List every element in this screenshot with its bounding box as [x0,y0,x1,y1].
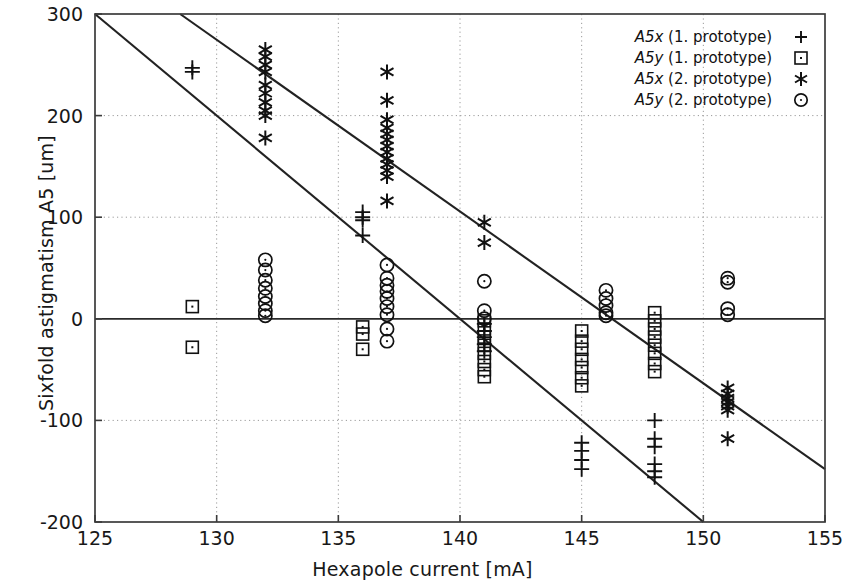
marker-asterisk [381,193,394,208]
legend-item-label: A5x (2. prototype) [635,70,772,88]
marker-plus [647,439,662,454]
marker-circle-center [483,318,485,320]
marker-asterisk [259,108,272,123]
marker-circle-center [727,277,729,279]
y-axis-title: Sixfold astigmatism A5 [um] [35,13,57,533]
x-axis-title: Hexapole current [mA] [0,558,845,580]
y-tick-label: 300 [0,3,83,25]
marker-plus [574,462,589,477]
marker-square-center [362,348,364,350]
marker-plus [185,64,200,79]
marker-circle-center [264,259,266,261]
data-series-1 [186,301,660,392]
marker-square-center [483,320,485,322]
x-tick-label: 155 [807,527,843,549]
y-tick-label: -200 [0,511,83,533]
marker-square-center [581,330,583,332]
chart-legend: A5x (1. prototype)A5y (1. prototype)A5x … [592,22,822,114]
y-tick-label: 200 [0,105,83,127]
marker-square-center [654,320,656,322]
x-tick-label: 150 [685,527,721,549]
data-series-0 [185,60,662,484]
marker-circle-center [386,328,388,330]
marker-square-center [483,360,485,362]
x-tick-label: 140 [442,527,478,549]
legend-marker-square-icon [786,49,816,67]
marker-square-center [581,377,583,379]
marker-circle-center [483,280,485,282]
y-tick-label: 0 [0,308,83,330]
y-tick-label: 100 [0,206,83,228]
x-tick-label: 145 [564,527,600,549]
marker-square-center [654,312,656,314]
marker-square-center [483,344,485,346]
legend-item-label: A5y (2. prototype) [635,91,772,109]
marker-square-center [581,385,583,387]
marker-square-center [581,358,583,360]
marker-circle-center [386,340,388,342]
marker-square-center [483,336,485,338]
marker-asterisk [478,235,491,250]
marker-circle-center [727,314,729,316]
marker-square-center [581,348,583,350]
marker-square-center [654,336,656,338]
marker-circle-center [386,314,388,316]
marker-asterisk [381,93,394,108]
marker-circle-center [727,281,729,283]
marker-asterisk [721,431,734,446]
marker-circle-center [605,312,607,314]
marker-square-center [191,346,193,348]
x-tick-label: 135 [320,527,356,549]
marker-asterisk [381,64,394,79]
marker-square-center [654,371,656,373]
marker-square-center [654,352,656,354]
marker-asterisk [259,130,272,145]
legend-item-1[interactable]: A5y (1. prototype) [600,47,816,68]
y-tick-label: -100 [0,409,83,431]
chart-figure: Hexapole current [mA] Sixfold astigmatis… [0,0,845,588]
legend-item-3[interactable]: A5y (2. prototype) [600,89,816,110]
legend-marker-circle-icon [786,91,816,109]
marker-square-center [654,363,656,365]
marker-square-center [483,352,485,354]
legend-item-0[interactable]: A5x (1. prototype) [600,26,816,47]
marker-circle-center [264,269,266,271]
marker-square-center [654,328,656,330]
marker-circle-center [264,315,266,317]
legend-item-label: A5y (1. prototype) [635,49,772,67]
marker-square-center [362,333,364,335]
marker-square-center [581,340,583,342]
legend-marker-plus-icon [786,28,816,46]
legend-item-label: A5x (1. prototype) [635,28,772,46]
legend-item-2[interactable]: A5x (2. prototype) [600,68,816,89]
legend-marker-asterisk-icon [786,70,816,88]
marker-square-center [483,328,485,330]
marker-circle-center [605,315,607,317]
marker-plus [355,213,370,228]
marker-circle-center [386,264,388,266]
marker-square-center [191,306,193,308]
marker-square-center [654,344,656,346]
data-series-3 [259,253,735,347]
marker-plus [647,413,662,428]
marker-square-center [483,376,485,378]
marker-square-center [581,367,583,369]
marker-asterisk [478,215,491,230]
marker-asterisk [381,169,394,184]
x-tick-label: 130 [199,527,235,549]
